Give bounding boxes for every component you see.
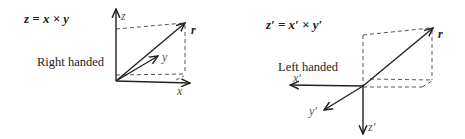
right-handed-panel: z = x × y Right handed z x y r — [23, 9, 196, 98]
right-r-vector — [116, 23, 185, 81]
left-x-axis — [290, 85, 363, 86]
left-handed-equation: z′ = x′ × y′ — [265, 17, 322, 32]
left-r-label: r — [438, 27, 443, 41]
left-x-label: x′ — [292, 71, 301, 85]
right-x-label: x — [176, 84, 183, 98]
handedness-diagram: z = x × y Right handed z x y r z′ = x′ ×… — [0, 0, 465, 139]
right-r-label: r — [191, 23, 196, 37]
right-y-label: y — [161, 50, 168, 64]
right-handed-equation: z = x × y — [23, 11, 69, 26]
left-z-label: z′ — [367, 120, 376, 134]
right-z-label: z — [120, 9, 126, 23]
left-y-axis — [324, 86, 363, 110]
left-r-vector — [363, 28, 433, 86]
right-x-axis — [116, 81, 190, 83]
left-handed-panel: z′ = x′ × y′ Left handed x′ y′ z′ r — [265, 17, 443, 134]
right-y-axis — [116, 56, 158, 81]
left-y-label: y′ — [308, 104, 317, 118]
right-handed-caption: Right handed — [37, 55, 105, 69]
left-handed-caption: Left handed — [278, 60, 339, 74]
